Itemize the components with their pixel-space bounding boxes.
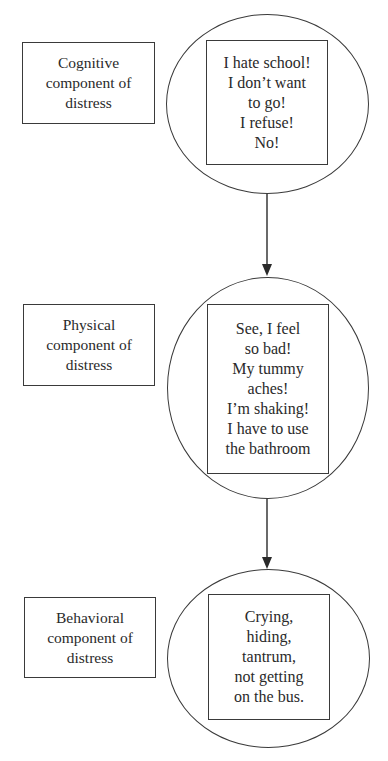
label-line: distress — [46, 355, 132, 375]
arrow-head-1 — [262, 264, 272, 276]
content-line: aches! — [226, 379, 311, 399]
behavioral-label-box: Behavioral component of distress — [24, 597, 156, 678]
content-line: so bad! — [226, 339, 311, 359]
content-line: not getting — [234, 667, 304, 687]
content-line: to go! — [223, 93, 310, 113]
label-line: Physical — [46, 315, 132, 335]
label-line: component of — [47, 628, 133, 648]
behavioral-content-box: Crying, hiding, tantrum, not getting on … — [208, 594, 330, 720]
content-line: Crying, — [234, 607, 304, 627]
content-line: I refuse! — [223, 113, 310, 133]
content-line: See, I feel — [226, 319, 311, 339]
content-line: I’m shaking! — [226, 399, 311, 419]
label-line: component of — [46, 73, 132, 93]
content-line: the bathroom — [226, 439, 311, 459]
label-line: distress — [46, 93, 132, 113]
arrow-head-2 — [262, 557, 272, 569]
label-line: distress — [47, 648, 133, 668]
content-line: I have to use — [226, 419, 311, 439]
content-line: on the bus. — [234, 687, 304, 707]
content-line: No! — [223, 133, 310, 153]
label-line: Cognitive — [46, 53, 132, 73]
cognitive-content-box: I hate school! I don’t want to go! I ref… — [206, 40, 328, 165]
label-line: component of — [46, 335, 132, 355]
physical-content-box: See, I feel so bad! My tummy aches! I’m … — [207, 304, 329, 474]
content-line: I hate school! — [223, 53, 310, 73]
label-line: Behavioral — [47, 608, 133, 628]
cognitive-label-box: Cognitive component of distress — [22, 42, 155, 124]
content-line: hiding, — [234, 627, 304, 647]
content-line: My tummy — [226, 359, 311, 379]
physical-label-box: Physical component of distress — [23, 304, 155, 386]
content-line: I don’t want — [223, 73, 310, 93]
content-line: tantrum, — [234, 647, 304, 667]
